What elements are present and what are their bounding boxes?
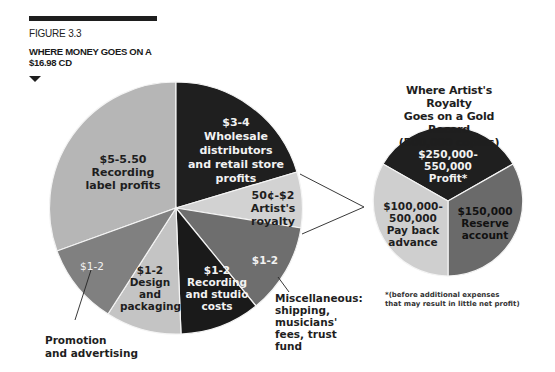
label-line: label profits [78, 179, 168, 192]
label-line: Recording [184, 276, 250, 288]
label-promotion: Promotion and advertising [45, 334, 155, 360]
label-line: Reserve [452, 217, 518, 229]
label-line: Miscellaneous: [275, 292, 365, 304]
amount: 50¢-$2 [228, 189, 318, 202]
label-label-profits: $5-5.50 Recording label profits [78, 153, 168, 192]
label-line: and retail store [186, 158, 286, 172]
label-line: Promotion [45, 334, 155, 347]
label-artist-royalty: 50¢-$2 Artist's royalty [228, 189, 318, 228]
label-line: 500,000 [380, 212, 446, 224]
label-reserve: $150,000 Reserve account [452, 205, 518, 241]
label-line: Wholesale [186, 130, 286, 144]
amount: $3-4 [186, 116, 286, 130]
sub-chart-title: Where Artist's Royalty Goes on a Gold Re… [384, 84, 514, 149]
label-line: costs [184, 300, 250, 312]
amount-promotion: $1-2 [74, 260, 110, 272]
label-line: $100,000- [380, 200, 446, 212]
label-line: Artist's royalty [228, 202, 318, 228]
label-wholesale: $3-4 Wholesale distributors and retail s… [186, 116, 286, 186]
label-line: 550,000 [410, 160, 486, 172]
label-line: and advertising [45, 347, 155, 360]
label-line: and [120, 288, 180, 300]
label-line: Recording [78, 166, 168, 179]
label-line: Profit* [410, 172, 486, 184]
label-line: fees, trust fund [275, 328, 365, 352]
label-design-packaging: $1-2 Design and packaging [120, 264, 180, 312]
amount: $1-2 [184, 264, 250, 276]
label-line: $250,000- [410, 148, 486, 160]
label-line: musicians' [275, 316, 365, 328]
label-line: shipping, [275, 304, 365, 316]
amount: $1-2 [120, 264, 180, 276]
label-line: profits [186, 172, 286, 186]
amount: $5-5.50 [78, 153, 168, 166]
label-line: $150,000 [452, 205, 518, 217]
label-recording-studio: $1-2 Recording and studio costs [184, 264, 250, 312]
label-line: account [452, 229, 518, 241]
footnote: *(before additional expenses that may re… [385, 291, 555, 309]
label-line: and studio [184, 288, 250, 300]
amount-miscellaneous: $1-2 [247, 254, 283, 266]
footnote-line: that may result in little net profit) [385, 300, 555, 309]
label-line: advance [380, 236, 446, 248]
label-profit: $250,000- 550,000 Profit* [410, 148, 486, 184]
title-line: Where Artist's Royalty [384, 84, 514, 110]
label-line: Pay back [380, 224, 446, 236]
title-line: Goes on a Gold Record [384, 110, 514, 136]
leader-misc [278, 277, 289, 292]
label-line: packaging [120, 300, 180, 312]
label-line: Design [120, 276, 180, 288]
label-payback: $100,000- 500,000 Pay back advance [380, 200, 446, 248]
footnote-line: *(before additional expenses [385, 291, 555, 300]
label-line: distributors [186, 144, 286, 158]
label-miscellaneous: Miscellaneous: shipping, musicians' fees… [275, 292, 365, 352]
